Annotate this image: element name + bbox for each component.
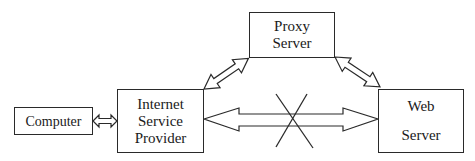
computer-node: Computer: [14, 107, 93, 135]
web-label-line-1: Web: [407, 98, 434, 115]
isp-label-line-1: Internet: [137, 96, 184, 113]
isp-node: Internet Service Provider: [117, 89, 204, 153]
proxy-server-node: Proxy Server: [249, 12, 335, 58]
isp-label-line-3: Provider: [135, 130, 187, 147]
isp-proxy-arrow: [199, 52, 253, 96]
proxy-web-arrow: [331, 50, 385, 93]
proxy-label-line-1: Proxy: [274, 18, 310, 35]
web-label-line-2: Server: [401, 127, 440, 144]
computer-label: Computer: [26, 113, 82, 130]
web-server-node: Web Server: [378, 89, 464, 153]
proxy-label-line-2: Server: [272, 35, 311, 52]
isp-label-line-2: Service: [138, 113, 183, 130]
isp-web-direct-arrow: [204, 108, 378, 131]
computer-isp-arrow: [93, 115, 117, 127]
